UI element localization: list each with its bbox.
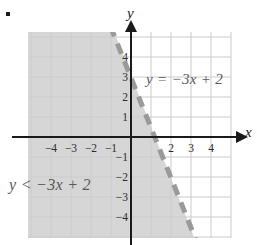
- y-axis-label: y: [127, 5, 134, 22]
- y-tick-label: −2: [116, 171, 128, 183]
- coordinate-plane: −4 −3 −2 −1 2 3 4 4 3 2 1 −1 −2 −3 −4: [0, 0, 257, 245]
- x-tick-label: 3: [188, 142, 194, 154]
- graph-figure: −4 −3 −2 −1 2 3 4 4 3 2 1 −1 −2 −3 −4 y …: [0, 0, 257, 245]
- y-tick-label: −3: [116, 191, 128, 203]
- x-tick-label: −4: [45, 142, 57, 154]
- y-tick-label: −4: [116, 211, 128, 223]
- x-tick-label: 2: [168, 142, 174, 154]
- y-tick-label: 3: [122, 71, 128, 83]
- x-tick-label: 4: [208, 142, 214, 154]
- y-tick-label: 1: [122, 111, 128, 123]
- x-tick-label: −2: [85, 142, 97, 154]
- y-tick-label: 2: [122, 91, 128, 103]
- y-tick-label: −1: [116, 151, 128, 163]
- inequality-annotation: y < −3x + 2: [9, 176, 91, 194]
- equation-annotation: y = −3x + 2: [146, 71, 223, 88]
- x-tick-label: −3: [65, 142, 77, 154]
- x-axis-label: x: [245, 124, 252, 141]
- y-tick-label: 4: [122, 51, 128, 63]
